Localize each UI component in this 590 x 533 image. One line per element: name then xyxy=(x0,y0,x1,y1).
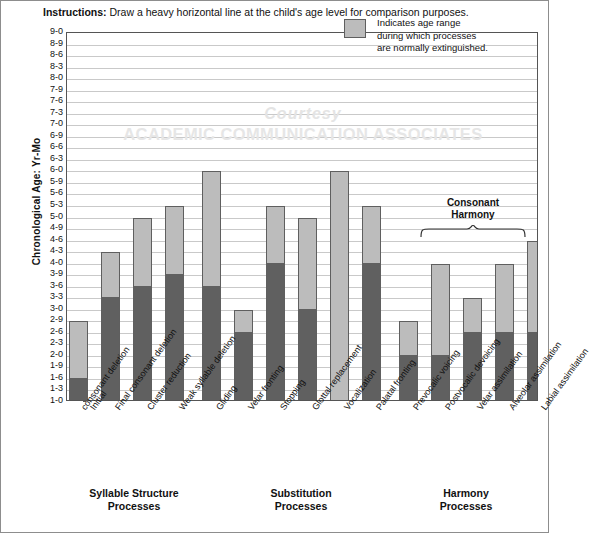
y-axis-tick-label: 3-3 xyxy=(23,292,63,301)
legend-line-3: are normally extinguished. xyxy=(377,42,488,55)
gridline xyxy=(67,148,537,149)
legend-text: Indicates age range during which process… xyxy=(377,17,488,55)
y-axis-tick-label: 1-6 xyxy=(23,373,63,382)
group-label-line-1: Syllable Structure xyxy=(39,487,229,500)
y-axis-tick-label: 6-9 xyxy=(23,131,63,140)
gridline xyxy=(67,114,537,115)
legend: Indicates age range during which process… xyxy=(344,17,529,66)
y-axis-tick-label: 7-0 xyxy=(23,119,63,128)
y-axis-tick-label: 4-0 xyxy=(23,258,63,267)
y-axis-tick-label: 2-3 xyxy=(23,338,63,347)
gridline xyxy=(67,102,537,103)
instructions-label: Instructions: xyxy=(43,6,107,18)
y-axis-tick-label: 9-0 xyxy=(23,27,63,36)
group-label-line-2: Processes xyxy=(391,500,541,513)
gridline xyxy=(67,137,537,138)
legend-line-1: Indicates age range xyxy=(377,17,488,30)
legend-swatch-age-range xyxy=(344,19,366,38)
y-axis-tick-label: 2-6 xyxy=(23,327,63,336)
y-axis-tick-label: 2-0 xyxy=(23,350,63,359)
y-axis-tick-label: 5-6 xyxy=(23,188,63,197)
y-axis-tick-label: 3-0 xyxy=(23,304,63,313)
group-label-line-2: Processes xyxy=(39,500,229,513)
gridline xyxy=(67,160,537,161)
y-axis-tick-label: 8-0 xyxy=(23,73,63,82)
y-axis-tick-label: 7-3 xyxy=(23,108,63,117)
y-axis-tick-label: 4-3 xyxy=(23,246,63,255)
consonant-harmony-annotation: Consonant Harmony xyxy=(413,197,533,221)
gridline xyxy=(67,91,537,92)
group-label-harmony: Harmony Processes xyxy=(391,487,541,513)
y-axis-tick-label: 6-3 xyxy=(23,154,63,163)
gridline xyxy=(67,125,537,126)
y-axis-tick-label: 6-0 xyxy=(23,165,63,174)
y-axis-tick-label: 7-6 xyxy=(23,96,63,105)
y-axis-tick-label: 5-0 xyxy=(23,212,63,221)
y-axis-tick-label: 5-9 xyxy=(23,177,63,186)
consonant-harmony-line-1: Consonant xyxy=(413,197,533,209)
group-label-line-1: Harmony xyxy=(391,487,541,500)
consonant-harmony-line-2: Harmony xyxy=(413,209,533,221)
y-axis-tick-label: 4-6 xyxy=(23,235,63,244)
group-label-syllable-structure: Syllable Structure Processes xyxy=(39,487,229,513)
bar-segment-present xyxy=(235,332,252,401)
watermark-line-2: ACADEMIC COMMUNICATION ASSOCIATES xyxy=(67,125,538,144)
group-label-line-1: Substitution xyxy=(216,487,386,500)
y-axis-tick-label: 1-3 xyxy=(23,384,63,393)
y-axis-tick-label: 5-3 xyxy=(23,200,63,209)
gridline xyxy=(67,183,537,184)
y-axis-tick-label: 1-9 xyxy=(23,361,63,370)
x-axis-labels: Initialconsonant deletionFinal consonant… xyxy=(1,402,550,482)
y-axis-tick-labels: 9-08-98-68-38-07-97-67-37-06-96-66-36-05… xyxy=(21,32,63,401)
y-axis-tick-label: 3-6 xyxy=(23,281,63,290)
group-label-line-2: Processes xyxy=(216,500,386,513)
bar xyxy=(298,218,317,402)
y-axis-tick-label: 7-9 xyxy=(23,85,63,94)
gridline xyxy=(67,171,537,172)
y-axis-tick-label: 4-9 xyxy=(23,223,63,232)
y-axis-tick-label: 2-9 xyxy=(23,315,63,324)
gridline xyxy=(67,194,537,195)
gridline xyxy=(67,68,537,69)
legend-line-2: during which processes xyxy=(377,30,488,43)
y-axis-tick-label: 8-3 xyxy=(23,62,63,71)
consonant-harmony-brace-icon xyxy=(419,225,527,237)
y-axis-tick-label: 8-6 xyxy=(23,50,63,59)
gridline xyxy=(67,79,537,80)
group-label-substitution: Substitution Processes xyxy=(216,487,386,513)
y-axis-tick-label: 3-9 xyxy=(23,269,63,278)
bar xyxy=(69,321,88,401)
y-axis-tick-label: 8-9 xyxy=(23,39,63,48)
y-axis-tick-label: 6-6 xyxy=(23,142,63,151)
